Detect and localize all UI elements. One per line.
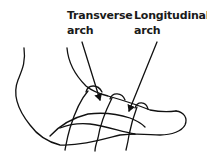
- top-of-foot-outline: [67, 48, 176, 112]
- longitudinal-line-2: [60, 124, 135, 134]
- transverse-line-3: [126, 107, 137, 150]
- transverse-arch-arrow: [82, 42, 100, 100]
- heel-outline: [16, 48, 186, 145]
- foot-diagram: [0, 0, 207, 158]
- longitudinal-arch-arrow: [129, 42, 157, 111]
- transverse-line-2: [95, 98, 112, 151]
- transverse-line-1: [65, 91, 88, 150]
